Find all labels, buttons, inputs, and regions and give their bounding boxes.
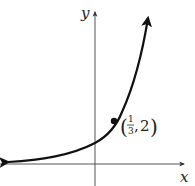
y-axis-label: y xyxy=(80,4,90,22)
exponential-curve xyxy=(8,18,148,162)
point-label: ( 1 3 , 2 ) xyxy=(120,114,158,139)
point-label-comma: , xyxy=(134,117,139,135)
exponential-graph: y x ( 1 3 , 2 ) xyxy=(0,0,195,186)
point-label-numerator: 1 xyxy=(128,114,134,124)
point-label-close-paren: ) xyxy=(150,115,158,139)
point-label-open-paren: ( xyxy=(120,115,128,139)
point-label-y: 2 xyxy=(140,117,150,135)
x-axis-label: x xyxy=(180,168,189,186)
highlighted-point xyxy=(111,118,117,124)
